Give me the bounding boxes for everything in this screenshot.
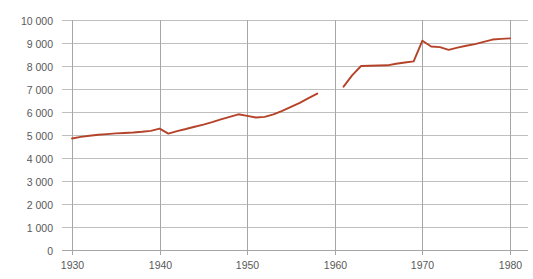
line-chart: 01 0002 0003 0004 0005 0006 0007 0008 00… [0, 0, 533, 279]
horizontal-gridlines [62, 21, 528, 251]
x-tick-label: 1960 [324, 259, 348, 271]
vertical-gridlines [73, 20, 511, 255]
x-axis-tick-labels: 193019401950196019701980 [61, 259, 523, 271]
y-tick-label: 10 000 [21, 15, 53, 27]
series-line-segment-2 [344, 38, 510, 86]
y-tick-label: 8 000 [27, 61, 53, 73]
y-tick-label: 9 000 [27, 38, 53, 50]
y-tick-label: 0 [47, 245, 53, 257]
chart-canvas: 01 0002 0003 0004 0005 0006 0007 0008 00… [0, 0, 533, 279]
series-line-segment-1 [72, 94, 317, 139]
y-tick-label: 5 000 [27, 130, 53, 142]
x-tick-label: 1930 [61, 259, 85, 271]
x-tick-label: 1940 [149, 259, 173, 271]
x-tick-label: 1950 [236, 259, 260, 271]
y-axis-tick-labels: 01 0002 0003 0004 0005 0006 0007 0008 00… [21, 15, 53, 257]
x-tick-label: 1970 [411, 259, 435, 271]
y-tick-label: 7 000 [27, 84, 53, 96]
x-tick-label: 1980 [499, 259, 523, 271]
y-tick-label: 2 000 [27, 199, 53, 211]
y-tick-label: 3 000 [27, 176, 53, 188]
data-series-lines [72, 38, 510, 138]
y-tick-label: 4 000 [27, 153, 53, 165]
y-tick-label: 6 000 [27, 107, 53, 119]
y-tick-label: 1 000 [27, 222, 53, 234]
